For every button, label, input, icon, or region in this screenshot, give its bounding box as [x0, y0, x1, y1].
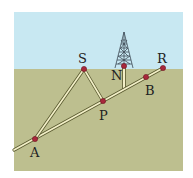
point-a	[32, 136, 37, 141]
label-n: N	[111, 68, 122, 83]
label-s: S	[78, 51, 87, 66]
point-s	[81, 66, 86, 71]
point-b	[143, 74, 148, 79]
point-r	[160, 65, 165, 70]
point-p	[100, 98, 105, 103]
label-a: A	[29, 145, 40, 160]
label-r: R	[157, 51, 168, 66]
label-p: P	[99, 108, 108, 123]
surveying-diagram: A S P N B R	[0, 0, 193, 178]
label-b: B	[145, 83, 155, 98]
